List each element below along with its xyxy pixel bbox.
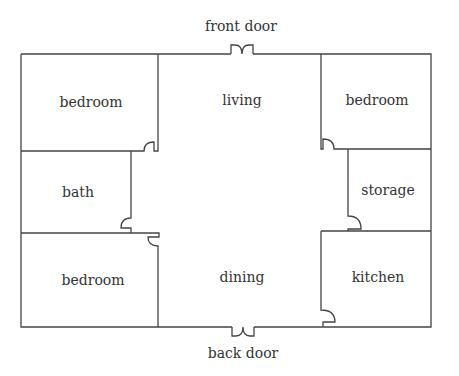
back-door-label: back door	[208, 345, 279, 361]
front-door-label: front door	[205, 18, 277, 34]
room-dining: dining	[220, 269, 265, 285]
room-kitchen: kitchen	[352, 269, 405, 285]
room-bedroom-ne: bedroom	[345, 92, 408, 108]
back-door-icon	[232, 327, 254, 336]
wall-bath	[121, 151, 131, 233]
room-bedroom-sw: bedroom	[61, 272, 124, 288]
front-door-icon	[231, 45, 253, 54]
room-bath: bath	[62, 184, 94, 200]
room-living: living	[222, 92, 261, 108]
room-bedroom-nw: bedroom	[59, 94, 122, 110]
room-storage: storage	[361, 182, 415, 198]
wall-storage	[348, 149, 361, 231]
